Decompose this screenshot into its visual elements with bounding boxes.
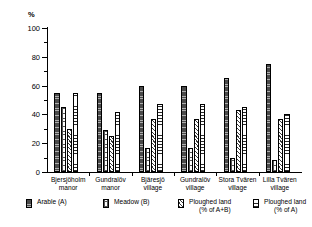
- y-tick-label: 100: [16, 25, 40, 33]
- y-tick-mark: [42, 172, 47, 173]
- y-axis-tick-labels: 020406080100: [10, 0, 40, 172]
- category-label-line: village: [255, 184, 305, 192]
- bar: [230, 158, 235, 172]
- bar: [242, 107, 247, 172]
- category-label-line: Lilla Tvären: [255, 176, 305, 184]
- y-tick-label: 60: [16, 82, 40, 90]
- bar: [266, 64, 271, 172]
- legend-swatch: [26, 199, 32, 208]
- bar: [188, 148, 193, 172]
- legend-label: Ploughed land(% of A+B): [189, 198, 231, 214]
- bar: [139, 86, 144, 172]
- bar: [236, 110, 241, 172]
- legend-swatch: [178, 199, 184, 208]
- y-tick-label: 20: [16, 140, 40, 148]
- legend-label: Ploughed land(% of A): [264, 198, 306, 214]
- bar: [97, 93, 102, 172]
- legend-swatch: [253, 199, 259, 208]
- y-tick-label: 40: [16, 111, 40, 119]
- chart-container: % 020406080100 BjersjöholmmanorGundralöv…: [0, 0, 312, 227]
- bar: [145, 148, 150, 172]
- bar: [284, 114, 289, 172]
- chart-legend: Arable (A)Meadow (B)Ploughed land(% of A…: [26, 198, 308, 222]
- bar: [181, 86, 186, 172]
- plot-area: [47, 28, 301, 172]
- bar: [54, 93, 59, 172]
- legend-label: Arable (A): [37, 198, 67, 206]
- bar: [67, 129, 72, 172]
- bar: [200, 104, 205, 172]
- legend-label-line2: (% of A): [264, 206, 306, 214]
- bar: [73, 93, 78, 172]
- bar: [224, 78, 229, 172]
- bar: [157, 104, 162, 172]
- legend-label: Meadow (B): [114, 198, 150, 206]
- bar: [61, 107, 66, 172]
- bar: [151, 119, 156, 172]
- bar: [194, 119, 199, 172]
- bar: [109, 136, 114, 172]
- bar: [115, 112, 120, 172]
- legend-label-line2: (% of A+B): [189, 206, 231, 214]
- bar: [278, 119, 283, 172]
- category-label: Lilla Tvärenvillage: [255, 176, 305, 191]
- bar: [103, 130, 108, 172]
- y-tick-label: 80: [16, 53, 40, 61]
- legend-swatch: [103, 199, 109, 208]
- y-tick-label: 0: [16, 169, 40, 177]
- bar: [272, 160, 277, 172]
